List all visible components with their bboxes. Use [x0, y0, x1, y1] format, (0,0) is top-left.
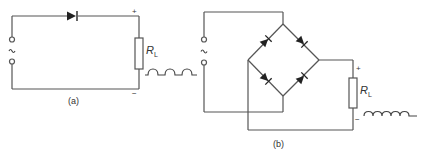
ac-terminal-bottom	[10, 59, 15, 64]
half-wave-waveform	[145, 69, 197, 75]
diode-icon	[295, 72, 307, 84]
rectifier-diagram: + − RL (a)	[0, 0, 427, 158]
ac-terminal-bottom	[202, 60, 207, 65]
minus-sign: −	[355, 115, 360, 124]
diode-icon	[295, 35, 307, 47]
plus-sign: +	[356, 64, 361, 73]
ac-terminal-top	[202, 37, 207, 42]
caption-b: (b)	[273, 139, 284, 149]
circuit-b-bridge	[201, 12, 357, 130]
plus-sign: +	[132, 7, 137, 16]
resistor-rl	[135, 38, 143, 69]
diode-icon	[67, 11, 77, 21]
ac-source-icon	[9, 50, 15, 53]
caption-a: (a)	[68, 96, 79, 106]
full-wave-waveform	[364, 112, 417, 117]
ac-source-icon	[201, 50, 207, 53]
ac-terminal-top	[10, 37, 15, 42]
minus-sign: −	[132, 89, 137, 98]
load-label-r: RL	[360, 84, 372, 98]
circuit-a-half-wave	[9, 16, 143, 89]
resistor-rl	[349, 78, 357, 108]
load-label-r: RL	[146, 44, 158, 58]
